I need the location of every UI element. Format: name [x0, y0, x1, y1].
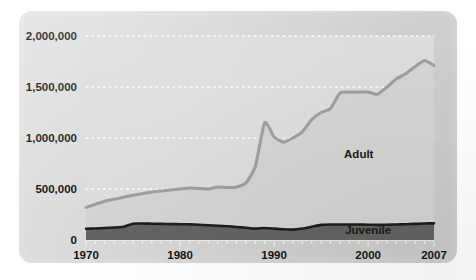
- y-tick-label: 2,000,000: [26, 30, 77, 42]
- x-axis-tick-labels: 19701980199020002007: [73, 249, 447, 261]
- x-tick-label: 1980: [167, 249, 193, 261]
- x-tick-label: 2007: [421, 249, 447, 261]
- chart-figure: 0500,0001,000,0001,500,0002,000,000 1970…: [0, 0, 476, 280]
- series-annotation-juvenile: Juvenile: [345, 224, 391, 236]
- axis-tickmarks: [86, 241, 434, 247]
- y-tick-label: 0: [71, 234, 77, 246]
- x-tick-label: 1990: [261, 249, 287, 261]
- y-tick-label: 500,000: [35, 183, 77, 195]
- series-annotation-adult: Adult: [344, 148, 374, 160]
- x-tick-label: 1970: [73, 249, 99, 261]
- y-tick-label: 1,000,000: [26, 132, 77, 144]
- x-tick-label: 2000: [355, 249, 381, 261]
- chart-svg: 0500,0001,000,0001,500,0002,000,000 1970…: [0, 0, 476, 280]
- y-tick-label: 1,500,000: [26, 81, 77, 93]
- y-axis-tick-labels: 0500,0001,000,0001,500,0002,000,000: [26, 30, 77, 246]
